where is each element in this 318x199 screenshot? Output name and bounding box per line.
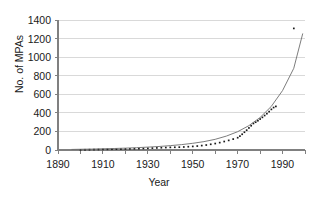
data-point — [196, 145, 198, 147]
data-point — [223, 141, 225, 143]
data-point — [192, 146, 194, 148]
data-point — [147, 147, 149, 149]
data-point — [178, 146, 180, 148]
data-point — [266, 113, 268, 115]
data-point — [241, 133, 243, 135]
data-point — [205, 144, 207, 146]
data-point — [152, 147, 154, 149]
data-point — [183, 146, 185, 148]
data-point — [201, 145, 203, 147]
data-point — [214, 143, 216, 145]
data-point — [237, 137, 239, 139]
data-point — [165, 147, 167, 149]
data-point — [143, 148, 145, 150]
data-point — [246, 129, 248, 131]
data-point — [187, 146, 189, 148]
data-point — [268, 111, 270, 113]
data-point — [273, 107, 275, 109]
data-point — [228, 140, 230, 142]
data-point — [264, 115, 266, 117]
data-point — [219, 142, 221, 144]
data-point — [239, 135, 241, 137]
data-point — [232, 138, 234, 140]
data-point — [248, 127, 250, 129]
data-point — [138, 148, 140, 150]
data-point — [257, 120, 259, 122]
data-point — [250, 125, 252, 127]
fitted-curve — [71, 33, 302, 149]
data-point — [156, 147, 158, 149]
plot-area — [0, 0, 318, 199]
data-point — [293, 28, 295, 30]
data-point — [271, 109, 273, 111]
chart-container: No. of MPAs 1400 1200 1000 800 600 400 2… — [0, 0, 318, 199]
data-point — [160, 147, 162, 149]
data-point — [169, 147, 171, 149]
data-point — [174, 146, 176, 148]
data-point — [262, 117, 264, 119]
data-point — [275, 106, 277, 108]
data-point — [244, 131, 246, 133]
data-point — [210, 143, 212, 145]
